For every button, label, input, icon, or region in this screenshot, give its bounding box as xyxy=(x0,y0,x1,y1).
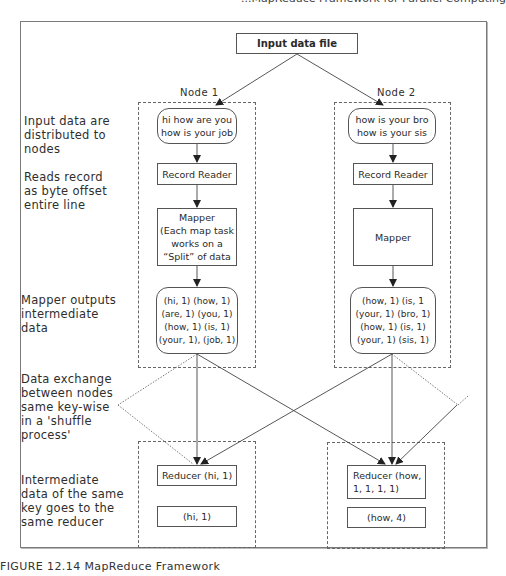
node-1-label: Node 1 xyxy=(180,87,219,98)
node-2-mapper-output: (how, 1) (is, 1 (your, 1) (bro, 1) (how,… xyxy=(350,287,436,354)
row-label-distribution: Input data are distributed to nodes xyxy=(24,114,110,156)
node-1-mapper-label: Mapper (Each map task works on a “Split”… xyxy=(160,211,234,263)
node-1-result: (hi, 1) xyxy=(157,506,237,527)
node-1-mapper-output: (hi, 1) (how, 1) (are, 1) (you, 1) (how,… xyxy=(156,287,238,354)
node-1-input-text: hi how are you how is your job xyxy=(161,113,233,139)
node-1-result-label: (hi, 1) xyxy=(183,510,211,523)
node-1-reducer-label: Reducer (hi, 1) xyxy=(162,469,232,482)
row-label-record-reading: Reads record as byte offset entire line xyxy=(24,170,107,212)
input-data-file-label: Input data file xyxy=(257,37,337,50)
row-label-shuffle: Data exchange between nodes same key-wis… xyxy=(21,372,113,442)
node-1-reduce-container xyxy=(138,441,256,548)
node-1-input-split: hi how are you how is your job xyxy=(157,108,237,144)
cropped-page-header: ...MapReduce Framework for Parallel Comp… xyxy=(0,0,506,5)
node-2-label: Node 2 xyxy=(377,87,416,98)
node-2-mapper-output-text: (how, 1) (is, 1 (your, 1) (bro, 1) (how,… xyxy=(356,295,431,347)
node-2-input-split: how is your bro how is your sis xyxy=(348,108,436,144)
node-1-record-reader: Record Reader xyxy=(157,163,237,185)
node-2-mapper: Mapper xyxy=(353,208,433,266)
node-2-result-label: (how, 4) xyxy=(367,511,406,524)
node-1-reducer: Reducer (hi, 1) xyxy=(157,465,237,486)
input-data-file-box: Input data file xyxy=(236,33,358,54)
node-1-mapper-output-text: (hi, 1) (how, 1) (are, 1) (you, 1) (how,… xyxy=(159,295,236,347)
node-2-input-text: how is your bro how is your sis xyxy=(355,113,428,139)
node-1-mapper: Mapper (Each map task works on a “Split”… xyxy=(157,208,237,266)
node-2-result: (how, 4) xyxy=(347,507,426,528)
node-2-reducer-label: Reducer (how, 1, 1, 1, 1) xyxy=(353,469,421,495)
node-2-record-reader-label: Record Reader xyxy=(358,168,427,181)
row-label-mapper-output: Mapper outputs intermediate data xyxy=(21,293,116,335)
node-2-mapper-label: Mapper xyxy=(375,231,411,244)
figure-caption: FIGURE 12.14 MapReduce Framework xyxy=(0,560,220,573)
node-2-reducer: Reducer (how, 1, 1, 1, 1) xyxy=(347,465,426,499)
node-1-record-reader-label: Record Reader xyxy=(162,168,231,181)
row-label-reducer: Intermediate data of the same key goes t… xyxy=(21,473,124,529)
node-2-record-reader: Record Reader xyxy=(353,163,433,185)
